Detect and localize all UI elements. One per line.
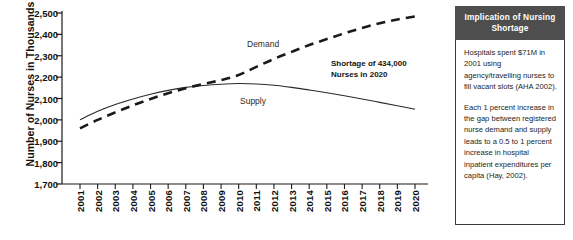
x-tick-label: 2004: [128, 190, 139, 212]
x-tick-label: 2015: [322, 190, 333, 212]
x-tick-label: 2013: [287, 190, 298, 212]
x-tick-label: 2019: [392, 190, 403, 212]
x-tick-label: 2017: [357, 190, 368, 212]
shortage-annotation-line1: Shortage of 434,000: [331, 59, 407, 70]
shortage-annotation-line2: Nurses in 2020: [331, 70, 407, 81]
x-tick-label: 2010: [234, 190, 245, 212]
x-tick-label: 2001: [75, 190, 86, 212]
x-tick-label: 2009: [216, 190, 227, 212]
nursing-shortage-figure: Number of Nurses in Thousands 2,5002,400…: [0, 0, 573, 240]
x-tick-label: 2016: [339, 190, 350, 212]
x-tick-label: 2014: [304, 190, 315, 212]
x-tick-label: 2011: [251, 190, 262, 211]
callout-paragraph: Each 1 percent increase in the gap betwe…: [464, 102, 557, 182]
callout-header: Implication of Nursing Shortage: [455, 6, 565, 40]
x-tick-label: 2018: [375, 190, 386, 212]
x-tick-label: 2005: [146, 190, 157, 212]
callout-title-line2: Shortage: [460, 23, 560, 34]
callout-paragraph: Hospitals spent $71M in 2001 using agenc…: [464, 47, 557, 93]
x-tick-label: 2006: [163, 190, 174, 212]
x-tick-label: 2002: [93, 190, 104, 212]
supply-series-label: Supply: [240, 96, 266, 106]
shortage-annotation: Shortage of 434,000 Nurses in 2020: [331, 59, 407, 80]
demand-series-label: Demand: [247, 39, 279, 49]
x-axis-tick-labels: 2001200220032004200520062007200820092010…: [0, 0, 435, 240]
callout-title-line1: Implication of Nursing: [460, 12, 560, 23]
x-tick-label: 2008: [198, 190, 209, 212]
x-tick-label: 2003: [110, 190, 121, 212]
implication-callout: Implication of Nursing Shortage Hospital…: [455, 6, 565, 232]
supply-demand-chart: Number of Nurses in Thousands 2,5002,400…: [0, 0, 435, 240]
callout-body: Hospitals spent $71M in 2001 using agenc…: [455, 40, 565, 225]
x-tick-label: 2012: [269, 190, 280, 212]
x-tick-label: 2020: [410, 190, 421, 212]
x-tick-label: 2007: [181, 190, 192, 212]
